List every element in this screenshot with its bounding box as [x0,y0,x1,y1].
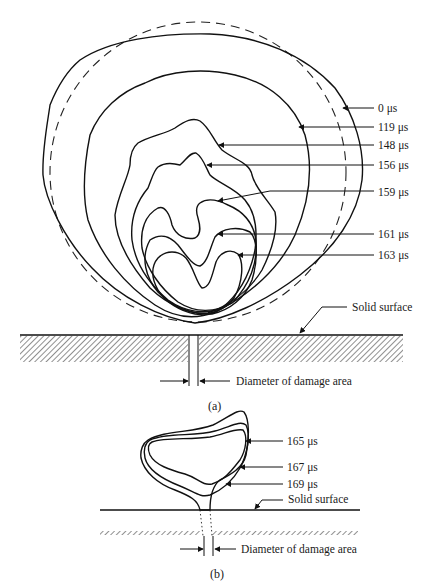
leader-surface-a [300,307,347,333]
label-0us: 0 μs [378,102,398,115]
solid-hatch-b-right [212,531,358,535]
contour-161us [145,229,256,315]
caption-b: (b) [210,567,224,581]
label-damage-diameter-a: Diameter of damage area [236,375,352,388]
label-159us: 159 μs [378,186,409,199]
damage-pit-dotted-left-b [200,510,203,536]
contour-163us [153,251,242,314]
label-solid-surface-b: Solid surface [288,493,348,505]
leader-surface-b [255,500,283,509]
contour-0us-initial [50,22,346,322]
solid-hatch-b-left [100,531,200,535]
label-165us: 165 μs [287,435,318,448]
solid-hatch-a-right [199,336,403,362]
contour-167us [144,423,248,496]
part-b: 165 μs 167 μs 169 μs Solid surface Diame… [100,411,360,581]
caption-a: (a) [208,399,221,413]
solid-hatch-a-left [20,336,188,362]
leader-159us [218,191,374,201]
label-169us: 169 μs [287,478,318,491]
label-119us: 119 μs [378,121,409,134]
part-a: 0 μs 119 μs 148 μs 156 μs 159 μs 161 μs … [20,22,412,413]
label-163us: 163 μs [378,249,409,262]
label-damage-diameter-b: Diameter of damage area [241,543,357,556]
contour-165us [148,430,246,485]
label-156us: 156 μs [378,159,409,172]
label-167us: 167 μs [287,461,318,474]
contour-148us [115,119,276,313]
damage-pit-dotted-right-b [210,510,212,536]
contour-0us-outer [43,34,363,323]
label-solid-surface-a: Solid surface [352,301,412,313]
bubble-collapse-diagram: 0 μs 119 μs 148 μs 156 μs 159 μs 161 μs … [0,0,429,588]
label-161us: 161 μs [378,228,409,241]
label-148us: 148 μs [378,139,409,152]
